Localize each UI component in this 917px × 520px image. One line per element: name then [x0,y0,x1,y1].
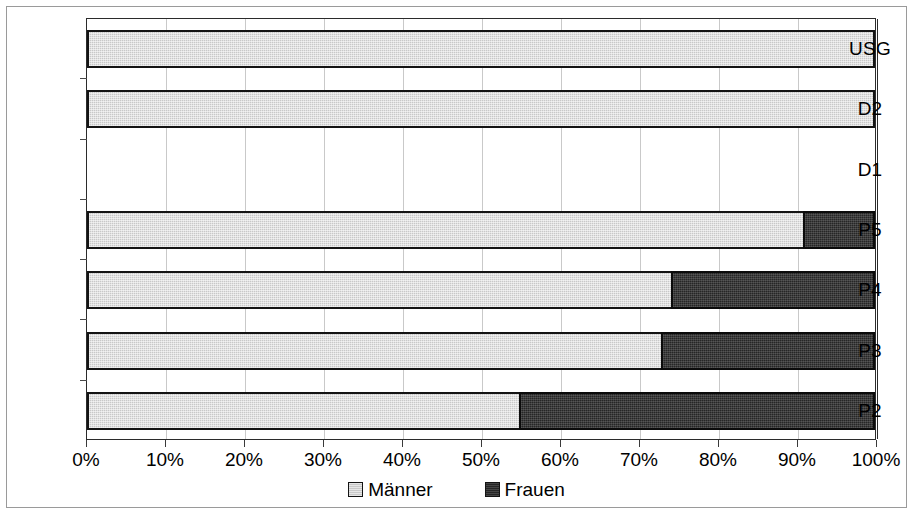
y-axis-label-p5: P5 [834,220,906,239]
legend-swatch-maenner-icon [348,482,363,497]
bar-segments [87,151,875,189]
bar-segments [87,90,875,128]
y-axis-tick-6 [80,380,87,381]
legend-label-maenner: Männer [368,480,432,499]
x-axis-label-20: 20% [199,450,289,469]
x-axis-label-80: 80% [673,450,763,469]
x-axis-label-30: 30% [278,450,368,469]
x-axis-tick-60 [560,440,561,447]
y-axis-label-p3: P3 [834,340,906,359]
bar-row-p5 [87,211,875,249]
y-axis-tick-3 [80,199,87,200]
x-axis-label-0: 0% [41,450,131,469]
legend-swatch-frauen-icon [485,482,500,497]
bar-row-usg [87,30,875,68]
bar-row-p2 [87,392,875,430]
x-axis-tick-10 [165,440,166,447]
x-axis-tick-50 [481,440,482,447]
x-axis-tick-80 [718,440,719,447]
y-axis-label-p2: P2 [834,400,906,419]
x-axis-tick-40 [402,440,403,447]
bar-segment-p4-maenner [87,271,673,309]
legend-item-frauen[interactable]: Frauen [485,480,565,499]
bar-segment-p3-maenner [87,332,663,370]
legend-label-frauen: Frauen [505,480,565,499]
y-axis-label-d1: D1 [834,159,906,178]
y-axis-label-d2: D2 [834,99,906,118]
x-axis-label-90: 90% [752,450,842,469]
x-axis-tick-30 [323,440,324,447]
bar-row-p3 [87,332,875,370]
bar-segments [87,271,875,309]
legend-item-maenner[interactable]: Männer [348,480,432,499]
chart-legend: MännerFrauen [7,480,906,499]
bar-segment-p5-maenner [87,211,805,249]
bar-segments [87,211,875,249]
x-axis-tick-100 [876,440,877,447]
bar-row-d2 [87,90,875,128]
x-axis-label-40: 40% [357,450,447,469]
y-axis-tick-1 [80,78,87,79]
x-axis-tick-70 [639,440,640,447]
bar-segments [87,392,875,430]
y-axis-tick-5 [80,319,87,320]
y-axis-label-p4: P4 [834,280,906,299]
bar-segment-usg-maenner [87,30,875,68]
bar-segments [87,332,875,370]
bar-segment-p2-maenner [87,392,521,430]
y-axis-tick-2 [80,139,87,140]
chart-frame: USGD2D1P5P4P3P2 0%10%20%30%40%50%60%70%8… [6,6,907,508]
x-axis-label-100: 100% [831,450,917,469]
x-axis-tick-0 [86,440,87,447]
bar-segment-p2-frauen [519,392,875,430]
x-axis-tick-20 [244,440,245,447]
bar-segments [87,30,875,68]
bar-row-d1 [87,151,875,189]
bar-segment-d2-maenner [87,90,875,128]
x-axis-label-70: 70% [594,450,684,469]
y-axis-tick-4 [80,259,87,260]
x-axis-label-50: 50% [436,450,526,469]
x-axis-label-10: 10% [120,450,210,469]
plot-area [86,18,876,440]
bar-row-p4 [87,271,875,309]
y-axis-label-usg: USG [834,39,906,58]
x-axis-tick-90 [797,440,798,447]
x-axis-label-60: 60% [515,450,605,469]
